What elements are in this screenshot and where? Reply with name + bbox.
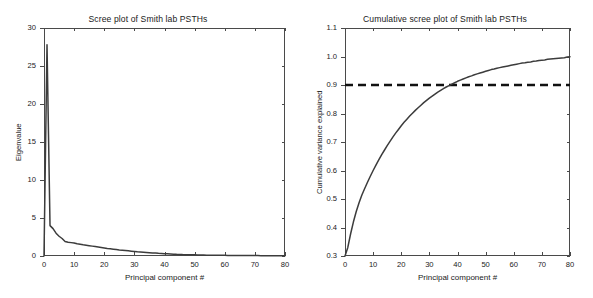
cumulative-variance-curve (345, 57, 570, 256)
panel-cumulative-scree-plot: Cumulative scree plot of Smith lab PSTHs… (297, 0, 593, 298)
right-curve-layer (297, 0, 593, 298)
eigenvalue-curve (44, 45, 285, 256)
figure-canvas: Scree plot of Smith lab PSTHs Eigenvalue… (0, 0, 593, 298)
left-curve-layer (0, 0, 296, 298)
panel-scree-plot: Scree plot of Smith lab PSTHs Eigenvalue… (0, 0, 296, 298)
